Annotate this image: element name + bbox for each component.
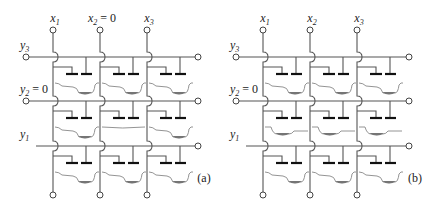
pixel-cell [147,101,193,139]
axis-label: x2 = 0 [87,11,116,27]
pixel-cell [147,146,193,184]
row-terminal-right [406,98,412,104]
pixel-cell [263,146,309,184]
row-terminal-left [23,54,29,60]
panel-a: x1x2 = 0x3y3y2 = 0y1(a) [19,11,211,198]
ccd-array-diagram: x1x2 = 0x3y3y2 = 0y1(a)x1x2x3y3y2 = 0y1(… [0,0,444,210]
pixel-cell [357,57,403,95]
column-terminal-bottom [97,192,103,198]
pixel-cell [147,57,193,95]
column-terminal-bottom [260,192,266,198]
panel-b: x1x2x3y3y2 = 0y1(b) [229,11,422,198]
potential-well [312,172,356,182]
axis-label: x1 [49,11,59,27]
pixel-cell [53,57,99,95]
axis-label: y3 [19,38,29,54]
potential-well [55,127,99,137]
potential-well [265,127,308,134]
pixel-cell [310,101,355,136]
column-terminal-top [97,27,103,33]
potential-well [102,127,145,128]
potential-well [312,83,356,93]
column-terminal-top [260,27,266,33]
axis-label: x3 [353,11,363,27]
potential-well [55,172,99,182]
row-terminal-right [195,143,201,149]
column-terminal-top [144,27,150,33]
pixel-cell [100,101,145,128]
row-terminal-right [195,54,201,60]
pixel-cell [53,146,99,184]
pixel-cell [263,101,308,136]
column-terminal-top [307,27,313,33]
panel-caption: (a) [197,171,210,185]
potential-well [359,127,402,134]
axis-label: x2 [306,11,316,27]
axis-label: x1 [259,11,269,27]
row-terminal-right [406,54,412,60]
pixel-cell [310,57,356,95]
column-terminal-top [50,27,56,33]
potential-well [265,172,309,182]
column-terminal-bottom [307,192,313,198]
axis-label: y2 = 0 [19,82,48,98]
pixel-cell [263,57,309,95]
axis-label: x3 [143,11,153,27]
potential-well [359,83,403,93]
axis-label: y2 = 0 [229,82,258,98]
potential-well [265,83,309,93]
pixel-cell [357,146,403,184]
axis-label: y1 [229,127,239,143]
potential-well [149,172,193,182]
potential-well [55,83,99,93]
column-terminal-bottom [144,192,150,198]
potential-well [359,172,403,182]
row-terminal-left [23,98,29,104]
axis-label: y1 [19,127,29,143]
pixel-cell [100,146,146,184]
potential-well [312,127,355,134]
potential-well [102,83,146,93]
potential-well [102,172,146,182]
potential-well [149,83,193,93]
column-terminal-bottom [354,192,360,198]
axis-label: y3 [229,38,239,54]
pixel-cell [100,57,146,95]
panel-caption: (b) [408,171,422,185]
column-terminal-top [354,27,360,33]
row-terminal-left [233,98,239,104]
pixel-cell [357,101,402,136]
potential-well [149,127,193,137]
pixel-cell [310,146,356,184]
pixel-cell [53,101,99,139]
row-terminal-right [406,143,412,149]
row-terminal-left [233,54,239,60]
column-terminal-bottom [50,192,56,198]
row-terminal-right [195,98,201,104]
